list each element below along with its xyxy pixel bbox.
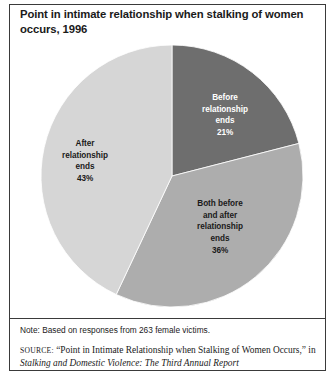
figure-source: SOURCE: “Point in Intimate Relationship … [20,344,320,369]
pie-label-value: 36% [168,245,272,257]
pie-label-after-relationship-ends: After relationship ends 43% [34,138,136,185]
source-label: SOURCE: [20,346,54,355]
pie-label-line: ends [168,233,272,245]
pie-label-line: Both before [168,198,272,210]
pie-label-both-before-and-after: Both before and after relationship ends … [168,198,272,256]
pie-label-line: relationship [174,104,276,116]
pie-label-line: relationship [34,150,136,162]
figure-note: Note: Based on responses from 263 female… [20,325,320,336]
pie-label-value: 43% [34,173,136,185]
footer-divider-rule [9,318,326,319]
pie-label-line: ends [34,161,136,173]
pie-label-line: relationship [168,221,272,233]
source-publication-title: Stalking and Domestic Violence: The Thir… [20,358,239,368]
figure-title: Point in intimate relationship when stal… [20,7,316,36]
pie-label-line: Before [174,92,276,104]
pie-chart: Before relationship ends 21% After relat… [0,40,333,315]
pie-label-before-relationship-ends: Before relationship ends 21% [174,92,276,139]
frame-rule-bottom [9,370,326,371]
frame-rule-top [9,4,326,5]
pie-label-line: and after [168,210,272,222]
pie-label-line: ends [174,115,276,127]
pie-label-value: 21% [174,127,276,139]
pie-label-line: After [34,138,136,150]
figure-container: Point in intimate relationship when stal… [0,0,333,375]
source-quoted-title: “Point in Intimate Relationship when Sta… [56,345,306,355]
source-connector: in [308,345,315,355]
